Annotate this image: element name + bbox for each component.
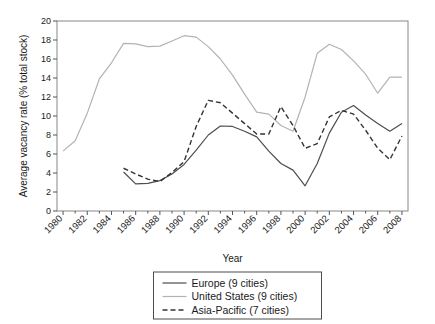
y-tick-label: 0 <box>46 206 51 216</box>
x-tick-label: 2008 <box>381 213 404 236</box>
y-tick-label: 20 <box>41 16 51 26</box>
x-tick-label: 1988 <box>139 213 162 236</box>
series-line-2 <box>124 100 402 181</box>
chart-figure: 0246810121416182019801982198419861988199… <box>0 0 435 324</box>
vacancy-rate-line-chart: 0246810121416182019801982198419861988199… <box>0 0 435 324</box>
y-tick-label: 14 <box>41 73 51 83</box>
y-tick-label: 8 <box>46 130 51 140</box>
x-tick-label: 1996 <box>235 213 258 236</box>
legend-label-2: Asia-Pacific (7 cities) <box>192 304 289 316</box>
y-tick-label: 6 <box>46 149 51 159</box>
plot-frame <box>57 21 408 211</box>
y-tick-label: 4 <box>46 168 51 178</box>
x-tick-label: 1984 <box>90 213 113 236</box>
series-line-1 <box>63 36 402 151</box>
x-tick-label: 1998 <box>260 213 283 236</box>
legend-label-1: United States (9 cities) <box>192 290 298 302</box>
series-line-0 <box>124 106 402 186</box>
x-tick-label: 2006 <box>356 213 379 236</box>
y-axis-title: Average vacancy rate (% total stock) <box>18 35 29 198</box>
x-tick-label: 1982 <box>66 213 89 236</box>
x-tick-label: 1992 <box>187 213 210 236</box>
x-tick-label: 1986 <box>114 213 137 236</box>
y-tick-label: 10 <box>41 111 51 121</box>
x-tick-label: 2002 <box>308 213 331 236</box>
legend-label-0: Europe (9 cities) <box>192 277 268 289</box>
y-tick-label: 16 <box>41 54 51 64</box>
x-tick-label: 1994 <box>211 213 234 236</box>
x-tick-label: 1990 <box>163 213 186 236</box>
x-tick-label: 2004 <box>332 213 355 236</box>
x-tick-label: 2000 <box>284 213 307 236</box>
y-tick-label: 2 <box>46 187 51 197</box>
x-axis-title: Year <box>222 253 243 264</box>
y-tick-label: 18 <box>41 35 51 45</box>
y-tick-label: 12 <box>41 92 51 102</box>
